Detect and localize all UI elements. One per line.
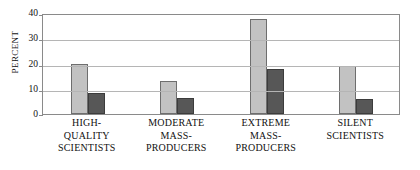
x-category-label-line: PRODUCERS bbox=[221, 142, 311, 155]
bar bbox=[250, 19, 267, 114]
bar-group bbox=[250, 15, 284, 114]
bars-layer bbox=[43, 15, 399, 114]
bar-chart: PERCENT 010203040 HIGH-QUALITYSCIENTISTS… bbox=[0, 0, 420, 170]
x-category-label-line: MASS- bbox=[132, 130, 222, 143]
y-tick-label: 40 bbox=[29, 9, 39, 19]
x-category-label: HIGH-QUALITYSCIENTISTS bbox=[42, 117, 132, 155]
x-category-label-line: SCIENTISTS bbox=[42, 142, 132, 155]
x-category-label-line: MASS- bbox=[221, 130, 311, 143]
gridline bbox=[43, 40, 399, 41]
y-axis-tick-labels: 010203040 bbox=[16, 14, 38, 115]
gridline bbox=[43, 91, 399, 92]
bar-group bbox=[160, 15, 194, 114]
x-category-label: MODERATEMASS-PRODUCERS bbox=[132, 117, 222, 155]
y-tick-label: 20 bbox=[29, 60, 39, 70]
x-category-label: SILENTSCIENTISTS bbox=[311, 117, 401, 142]
gridline bbox=[43, 66, 399, 67]
y-tick-mark bbox=[39, 115, 43, 116]
x-axis-category-labels: HIGH-QUALITYSCIENTISTSMODERATEMASS-PRODU… bbox=[42, 117, 400, 167]
x-category-label-line: SILENT bbox=[311, 117, 401, 130]
bar-group bbox=[71, 15, 105, 114]
bar bbox=[71, 64, 88, 115]
x-category-label-line: QUALITY bbox=[42, 130, 132, 143]
bar bbox=[177, 98, 194, 114]
bar bbox=[160, 81, 177, 114]
x-category-label-line: MODERATE bbox=[132, 117, 222, 130]
x-category-label-line: PRODUCERS bbox=[132, 142, 222, 155]
y-tick-label: 30 bbox=[29, 35, 39, 45]
plot-area bbox=[42, 14, 400, 115]
y-tick-mark bbox=[39, 15, 43, 16]
x-category-label: EXTREMEMASS-PRODUCERS bbox=[221, 117, 311, 155]
x-category-label-line: SCIENTISTS bbox=[311, 130, 401, 143]
y-tick-label: 10 bbox=[29, 85, 39, 95]
bar bbox=[356, 99, 373, 114]
x-category-label-line: EXTREME bbox=[221, 117, 311, 130]
y-tick-label: 0 bbox=[33, 110, 38, 120]
bar bbox=[88, 93, 105, 114]
bar-group bbox=[339, 15, 373, 114]
x-category-label-line: HIGH- bbox=[42, 117, 132, 130]
